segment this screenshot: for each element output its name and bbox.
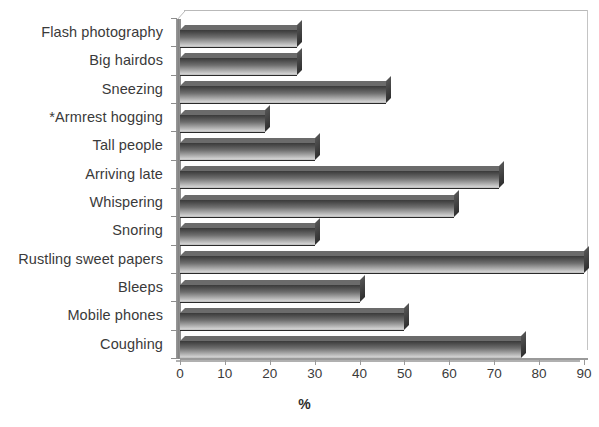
y-tick: [171, 131, 177, 132]
x-axis-title-text: %: [298, 396, 310, 412]
x-axis-ticks: 0102030405060708090: [180, 360, 588, 370]
bar-end-cap: [404, 303, 409, 330]
bar-front-face: [180, 171, 499, 189]
bar: [180, 138, 315, 155]
bar-row: [180, 103, 588, 131]
bar: [180, 166, 499, 183]
category-label: Coughing: [0, 337, 172, 352]
x-axis-title: %: [0, 396, 599, 412]
y-tick-marks: [171, 18, 177, 358]
y-tick: [171, 330, 177, 331]
category-label: Rustling sweet papers: [0, 252, 172, 267]
bar: [180, 53, 297, 70]
bar: [180, 223, 315, 240]
x-tick-label: 40: [352, 366, 367, 381]
bar-row: [180, 330, 588, 358]
bar-row: [180, 131, 588, 159]
category-label: Big hairdos: [0, 53, 172, 68]
x-tick-label: 50: [397, 366, 412, 381]
x-tick-label: 90: [576, 366, 591, 381]
bar-row: [180, 216, 588, 244]
bar: [180, 251, 584, 268]
bar: [180, 25, 297, 42]
category-label: Flash photography: [0, 25, 172, 40]
bar-front-face: [180, 58, 297, 76]
category-label: Mobile phones: [0, 308, 172, 323]
category-label: Whispering: [0, 195, 172, 210]
x-tick-label: 60: [442, 366, 457, 381]
bar-end-cap: [265, 105, 270, 132]
x-tick: [449, 360, 450, 365]
x-tick-label: 10: [217, 366, 232, 381]
bar-row: [180, 188, 588, 216]
x-tick: [225, 360, 226, 365]
bar-front-face: [180, 228, 315, 246]
category-label: *Armrest hogging: [0, 110, 172, 125]
bar-series: [180, 18, 588, 358]
bar-row: [180, 46, 588, 74]
x-tick-label: 70: [487, 366, 502, 381]
bar-end-cap: [521, 331, 526, 358]
panel-top-edge: [184, 10, 588, 11]
plot-area: 0102030405060708090: [176, 10, 588, 362]
y-tick: [171, 188, 177, 189]
bar: [180, 280, 360, 297]
bar-end-cap: [360, 275, 365, 302]
x-tick-label: 80: [532, 366, 547, 381]
bar-row: [180, 245, 588, 273]
y-tick: [171, 301, 177, 302]
x-tick: [180, 360, 181, 365]
y-tick: [171, 75, 177, 76]
y-tick: [171, 18, 177, 19]
bar: [180, 81, 386, 98]
y-tick: [171, 245, 177, 246]
bar-row: [180, 75, 588, 103]
bar-end-cap: [315, 133, 320, 160]
bar-end-cap: [297, 48, 302, 75]
bar: [180, 195, 454, 212]
bar-front-face: [180, 285, 360, 303]
x-tick-label: 0: [176, 366, 184, 381]
bar-end-cap: [584, 246, 589, 273]
bar-end-cap: [499, 161, 504, 188]
bar-end-cap: [297, 20, 302, 47]
bar-end-cap: [386, 76, 391, 103]
y-tick: [171, 160, 177, 161]
bar-front-face: [180, 341, 521, 359]
bar-front-face: [180, 86, 386, 104]
category-label: Bleeps: [0, 280, 172, 295]
bar-end-cap: [315, 218, 320, 245]
x-tick-label: 30: [307, 366, 322, 381]
x-tick: [494, 360, 495, 365]
bar-front-face: [180, 143, 315, 161]
x-tick: [404, 360, 405, 365]
bar-row: [180, 301, 588, 329]
y-tick: [171, 273, 177, 274]
category-label: Snoring: [0, 223, 172, 238]
bar-front-face: [180, 30, 297, 48]
category-label: Tall people: [0, 138, 172, 153]
bar-front-face: [180, 115, 265, 133]
category-label: Sneezing: [0, 82, 172, 97]
category-label: Arriving late: [0, 167, 172, 182]
cropped-caption-sliver: [60, 419, 480, 427]
bar: [180, 308, 404, 325]
x-tick: [315, 360, 316, 365]
y-tick: [171, 216, 177, 217]
bar-front-face: [180, 313, 404, 331]
y-tick: [171, 46, 177, 47]
bar-front-face: [180, 200, 454, 218]
bar: [180, 336, 521, 353]
x-tick-label: 20: [262, 366, 277, 381]
bar-front-face: [180, 256, 584, 274]
bar-end-cap: [454, 190, 459, 217]
x-tick: [584, 360, 585, 365]
bar-row: [180, 18, 588, 46]
y-tick: [171, 358, 177, 359]
bar-row: [180, 273, 588, 301]
bar-row: [180, 160, 588, 188]
x-tick: [270, 360, 271, 365]
x-tick: [360, 360, 361, 365]
bar-chart: Flash photography Big hairdos Sneezing *…: [0, 0, 599, 427]
y-tick: [171, 103, 177, 104]
